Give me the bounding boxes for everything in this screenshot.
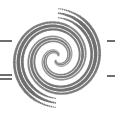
halftone-spiral-logo xyxy=(0,0,115,114)
spiral-icon xyxy=(0,0,115,114)
